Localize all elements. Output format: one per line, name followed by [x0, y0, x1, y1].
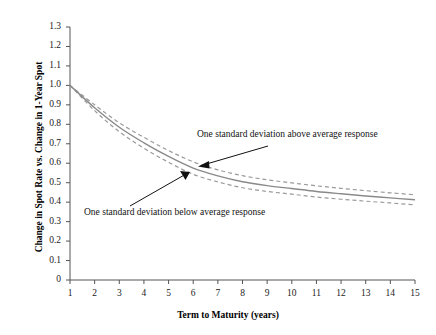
annotation-below-label: One standard deviation below average res…: [84, 207, 265, 217]
average-response-line: [70, 85, 415, 199]
y-tick-label: 1.3: [35, 21, 61, 31]
y-axis-title: Change in Spot Rate vs. Change in 1-Year…: [34, 42, 44, 272]
x-tick-label: 6: [182, 288, 204, 298]
x-tick-label: 13: [355, 288, 377, 298]
data-series-group: [70, 85, 415, 205]
x-tick-label: 14: [379, 288, 401, 298]
lower-band-line: [70, 85, 415, 205]
arrow-above-head: [198, 161, 210, 169]
x-tick-label: 15: [404, 288, 426, 298]
x-tick-label: 7: [207, 288, 229, 298]
x-tick-label: 2: [84, 288, 106, 298]
chart-figure: 00.10.20.30.40.50.60.70.80.91.01.11.21.3…: [0, 0, 436, 335]
x-axis-ticks: [70, 280, 415, 284]
y-axis-ticks: [66, 27, 70, 280]
x-tick-label: 12: [330, 288, 352, 298]
x-tick-label: 4: [133, 288, 155, 298]
annotation-arrows: [130, 146, 268, 206]
x-tick-label: 3: [108, 288, 130, 298]
axes-group: [66, 27, 415, 284]
x-tick-label: 8: [232, 288, 254, 298]
y-tick-label: 0: [35, 274, 61, 284]
x-axis-title: Term to Maturity (years): [148, 310, 308, 320]
x-tick-label: 11: [305, 288, 327, 298]
annotation-above-label: One standard deviation above average res…: [197, 129, 378, 139]
arrow-below-head: [180, 171, 190, 180]
x-tick-label: 9: [256, 288, 278, 298]
x-tick-label: 1: [59, 288, 81, 298]
arrow-above-shaft: [203, 146, 268, 165]
x-tick-label: 5: [158, 288, 180, 298]
chart-canvas: [0, 0, 436, 335]
upper-band-line: [70, 85, 415, 194]
x-tick-label: 10: [281, 288, 303, 298]
arrow-below-shaft: [130, 174, 186, 206]
